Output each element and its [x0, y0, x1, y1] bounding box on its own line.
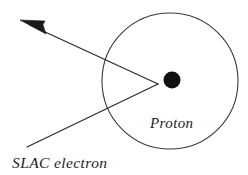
scattered-direction-arrowhead: [20, 20, 46, 34]
scattering-diagram: Proton SLAC electron: [0, 0, 248, 175]
proton-label: Proton: [149, 115, 194, 131]
scattering-diagram-canvas: Proton SLAC electron: [0, 0, 248, 175]
scattered-electron-track: [30, 25, 158, 84]
proton-nucleus-dot: [164, 72, 181, 89]
incoming-electron-track: [27, 84, 158, 147]
slac-electron-label: SLAC electron: [12, 154, 107, 171]
